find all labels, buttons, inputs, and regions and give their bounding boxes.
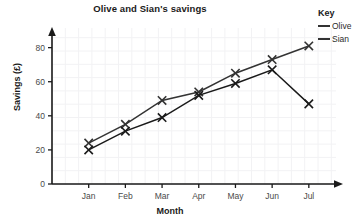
x-axis-title: Month xyxy=(45,206,295,216)
svg-text:20: 20 xyxy=(36,145,46,155)
chart-container: Olive and Sian's savings 020406080 JanFe… xyxy=(0,0,362,221)
svg-text:Feb: Feb xyxy=(118,191,133,201)
svg-text:Apr: Apr xyxy=(192,191,205,201)
chart-legend: Key Olive Sian xyxy=(318,8,362,47)
svg-text:Jul: Jul xyxy=(303,191,314,201)
legend-item-label: Sian xyxy=(332,34,349,44)
svg-text:Jan: Jan xyxy=(82,191,96,201)
legend-item-label: Olive xyxy=(332,21,351,31)
chart-plot-area: 020406080 JanFebMarAprMayJunJul xyxy=(0,0,362,221)
svg-text:May: May xyxy=(227,191,244,201)
svg-text:Mar: Mar xyxy=(155,191,170,201)
legend-line-icon xyxy=(318,25,330,27)
legend-item-olive: Olive xyxy=(318,21,362,31)
svg-text:40: 40 xyxy=(36,111,46,121)
y-axis-ticks: 020406080 xyxy=(36,43,52,189)
legend-line-icon xyxy=(318,38,330,40)
legend-item-sian: Sian xyxy=(318,34,362,44)
svg-text:0: 0 xyxy=(40,179,45,189)
legend-title: Key xyxy=(318,8,362,18)
y-axis-title: Savings (£) xyxy=(12,42,22,132)
svg-text:80: 80 xyxy=(36,43,46,53)
x-axis-ticks: JanFebMarAprMayJunJul xyxy=(82,184,315,201)
svg-text:60: 60 xyxy=(36,77,46,87)
svg-text:Jun: Jun xyxy=(265,191,279,201)
